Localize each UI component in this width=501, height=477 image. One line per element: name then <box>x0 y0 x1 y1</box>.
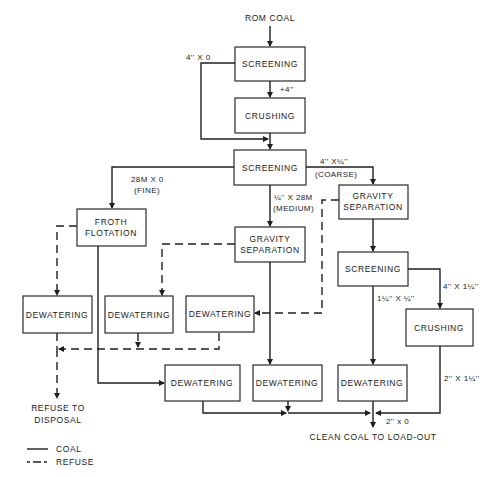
node-label-line1: GRAVITY <box>250 234 291 244</box>
node-label: DEWATERING <box>171 378 234 388</box>
node-label: SCREENING <box>242 163 298 173</box>
edge-label-fine-size: 28M X 0 <box>131 175 164 184</box>
flowsheet-diagram: SCREENING CRUSHING SCREENING FROTH FLOTA… <box>0 0 501 477</box>
node-label: DEWATERING <box>26 310 89 320</box>
node-label: DEWATERING <box>341 378 404 388</box>
node-label-line1: FROTH <box>95 217 127 227</box>
node-dewatering-refuse-medium: DEWATERING <box>105 296 173 333</box>
edge-label-medium-size: ¼'' X 28M <box>274 193 313 202</box>
node-label: DEWATERING <box>256 378 319 388</box>
node-crushing-2: CRUSHING <box>406 309 473 346</box>
edge-label-screen3-under: 1¼'' X ¼'' <box>377 294 415 303</box>
legend-label-coal: COAL <box>56 444 82 454</box>
source-label: ROM COAL <box>245 13 295 23</box>
edge-label-medium: (MEDIUM) <box>273 204 314 213</box>
edge-froth-refuse <box>57 226 77 295</box>
node-label-line2: FLOTATION <box>85 228 137 238</box>
node-dewatering-clean-coarse: DEWATERING <box>338 365 407 401</box>
refuse-label-line2: DISPOSAL <box>34 415 81 425</box>
node-label: SCREENING <box>345 264 401 274</box>
node-dewatering-clean-fine: DEWATERING <box>165 365 240 401</box>
edge-label-coarse: (COARSE) <box>315 170 357 179</box>
edge-label-screen3-over: 4'' X 1¼'' <box>443 282 479 291</box>
edge-gravity-medium-refuse <box>162 244 235 295</box>
edge-dewater-fine-out <box>203 401 286 413</box>
node-dewatering-refuse-coarse: DEWATERING <box>186 296 254 332</box>
edge-label-oversize: +4'' <box>280 85 294 94</box>
node-gravity-separation-coarse: GRAVITY SEPARATION <box>339 185 408 219</box>
node-gravity-separation-medium: GRAVITY SEPARATION <box>235 227 305 262</box>
refuse-label-line1: REFUSE TO <box>31 403 85 413</box>
legend-label-refuse: REFUSE <box>56 457 94 467</box>
node-dewatering-refuse-fine: DEWATERING <box>23 296 92 333</box>
edge-fine <box>112 167 234 208</box>
edge-label-final-size: 2'' x 0 <box>386 417 409 426</box>
node-label: CRUSHING <box>414 323 464 333</box>
edge-label-coarse-size: 4'' X¼'' <box>320 157 348 166</box>
edge-label-crusher2-out: 2'' X 1¼'' <box>444 374 480 383</box>
edge-label-undersize-bypass: 4'' X 0 <box>186 53 211 62</box>
output-label: CLEAN COAL TO LOAD-OUT <box>310 432 437 442</box>
node-label-line2: SEPARATION <box>343 202 403 212</box>
node-label: DEWATERING <box>108 310 171 320</box>
edge-label-fine: (FINE) <box>134 186 160 195</box>
node-label: SCREENING <box>242 59 298 69</box>
node-label-line1: GRAVITY <box>353 191 394 201</box>
legend: COAL REFUSE <box>27 444 94 467</box>
node-froth-flotation: FROTH FLOTATION <box>77 209 146 246</box>
node-screening-2: SCREENING <box>234 150 306 185</box>
edge-refuse-collector <box>59 333 219 349</box>
node-dewatering-clean-medium: DEWATERING <box>253 365 322 401</box>
node-label: CRUSHING <box>245 111 295 121</box>
node-screening-1: SCREENING <box>235 47 305 81</box>
node-label: DEWATERING <box>189 309 252 319</box>
node-label-line2: SEPARATION <box>240 245 300 255</box>
node-screening-3: SCREENING <box>338 252 408 286</box>
node-crushing-1: CRUSHING <box>235 98 305 133</box>
